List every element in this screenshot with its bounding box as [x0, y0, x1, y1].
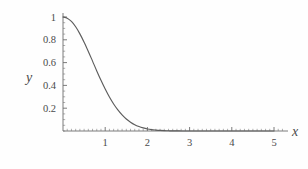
x-axis-title: x — [291, 124, 299, 139]
y-axis-tick-label: 0.2 — [43, 103, 56, 114]
y-axis-major-ticks — [63, 17, 67, 108]
x-axis-tick-label: 3 — [187, 137, 192, 148]
y-axis-title: y — [24, 70, 33, 85]
plot-canvas: 12345 0.20.40.60.81 x y — [0, 0, 308, 169]
x-axis-tick-label: 5 — [271, 137, 276, 148]
x-axis-tick-label: 1 — [103, 137, 108, 148]
y-axis-tick-labels: 0.20.40.60.81 — [43, 12, 57, 114]
x-axis-tick-label: 4 — [229, 137, 235, 148]
y-axis-tick-label: 0.6 — [43, 57, 56, 68]
x-axis-tick-labels: 12345 — [103, 137, 277, 148]
x-axis-tick-label: 2 — [145, 137, 150, 148]
y-axis-tick-label: 0.8 — [43, 34, 56, 45]
plot-figure: 12345 0.20.40.60.81 x y — [0, 0, 308, 169]
data-series-curve — [63, 17, 274, 131]
y-axis-tick-label: 1 — [51, 12, 56, 23]
y-axis-tick-label: 0.4 — [43, 80, 57, 91]
